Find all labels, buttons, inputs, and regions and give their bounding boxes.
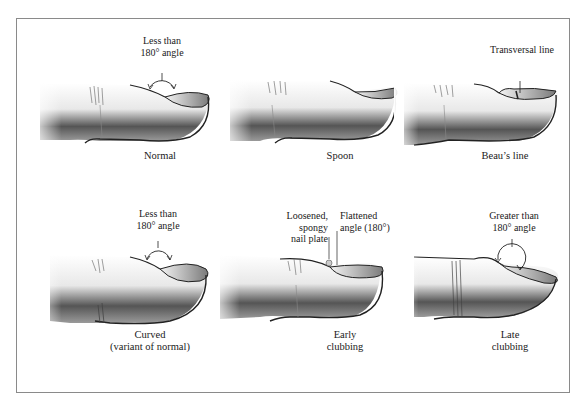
annotation-line: Flattened (340, 210, 400, 222)
finger-spoon-illustration (220, 25, 410, 205)
caption-line: Curved (90, 329, 210, 341)
annotation-line: Loosened, (268, 210, 328, 222)
finger-curved-illustration (30, 205, 220, 385)
annotation-late-angle: Greater than 180° angle (474, 210, 554, 233)
annotation-normal-angle: Less than 180° angle (132, 35, 192, 58)
annotation-line: 180° angle (128, 220, 188, 232)
panel-early-clubbing: Loosened, spongy nail plate Flattened an… (210, 205, 400, 385)
caption-line: Spoon (315, 150, 365, 162)
caption-spoon: Spoon (315, 150, 365, 162)
annotation-line: Greater than (474, 210, 554, 222)
caption-line: clubbing (315, 341, 375, 353)
caption-line: (variant of normal) (90, 341, 210, 353)
caption-line: Early (315, 329, 375, 341)
annotation-line: Less than (132, 35, 192, 47)
caption-line: Beau’s line (470, 150, 540, 162)
caption-line: Normal (125, 150, 195, 162)
annotation-line: Transversal line (482, 44, 562, 56)
panel-beaus-line: Transversal line Beau’s line (394, 25, 584, 205)
annotation-line: Less than (128, 208, 188, 220)
annotation-line: 180° angle (132, 47, 192, 59)
annotation-flattened-angle: Flattened angle (180°) (340, 210, 400, 233)
angle-arc-icon (150, 81, 174, 88)
caption-beaus-line: Beau’s line (470, 150, 540, 162)
caption-late-clubbing: Late clubbing (480, 329, 540, 353)
panel-spoon: Spoon (220, 25, 410, 205)
angle-arc-icon (147, 251, 170, 260)
caption-early-clubbing: Early clubbing (315, 329, 375, 353)
annotation-line: nail plate (268, 233, 328, 245)
caption-line: clubbing (480, 341, 540, 353)
annotation-curved-angle: Less than 180° angle (128, 208, 188, 231)
annotation-line: 180° angle (474, 222, 554, 234)
caption-normal: Normal (125, 150, 195, 162)
caption-curved: Curved (variant of normal) (90, 329, 210, 353)
caption-line: Late (480, 329, 540, 341)
panel-late-clubbing: Greater than 180° angle Late clubbing (394, 205, 584, 385)
panel-normal: Less than 180° angle Normal (30, 25, 220, 205)
spongy-nail-bump (326, 260, 332, 266)
panel-curved: Less than 180° angle Curved (variant of … (30, 205, 220, 385)
annotation-line: angle (180°) (340, 222, 400, 234)
annotation-transversal-line: Transversal line (482, 44, 562, 56)
annotation-line: spongy (268, 222, 328, 234)
annotation-loosened-nail-plate: Loosened, spongy nail plate (268, 210, 328, 245)
